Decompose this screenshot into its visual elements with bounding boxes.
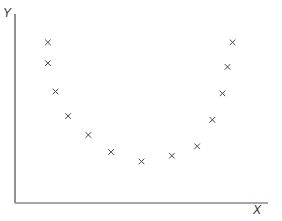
x-marker-icon (45, 60, 51, 66)
x-marker-icon (169, 153, 175, 159)
x-marker-icon (108, 149, 114, 155)
data-points (45, 40, 235, 165)
x-axis-label: X (253, 203, 261, 217)
x-marker-icon (220, 91, 226, 97)
x-marker-icon (210, 117, 216, 123)
x-marker-icon (139, 159, 145, 165)
scatter-chart (0, 0, 282, 221)
y-axis-label: Y (3, 6, 11, 20)
x-marker-icon (86, 132, 92, 138)
x-marker-icon (225, 64, 231, 70)
x-marker-icon (230, 40, 236, 46)
x-marker-icon (45, 40, 51, 46)
x-marker-icon (194, 144, 200, 150)
x-marker-icon (65, 113, 71, 119)
x-marker-icon (53, 89, 59, 95)
